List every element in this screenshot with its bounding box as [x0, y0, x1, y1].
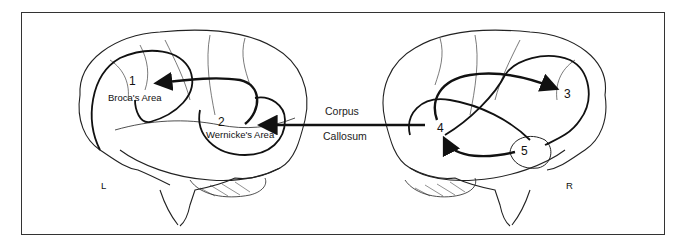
area-3-number: 3	[564, 88, 571, 100]
left-hemisphere-label: L	[101, 181, 106, 191]
wernickes-area-label: Wernicke's Area	[206, 130, 274, 140]
brocas-area-label: Broca's Area	[108, 93, 162, 103]
callosum-label: Callosum	[323, 131, 367, 142]
area-1-number: 1	[129, 75, 136, 87]
area-4-number: 4	[437, 122, 444, 134]
area-2-number: 2	[218, 116, 225, 128]
right-hemisphere-label: R	[566, 181, 573, 191]
brain-illustration	[0, 0, 686, 248]
corpus-label: Corpus	[325, 106, 359, 117]
area-5-number: 5	[521, 145, 528, 157]
